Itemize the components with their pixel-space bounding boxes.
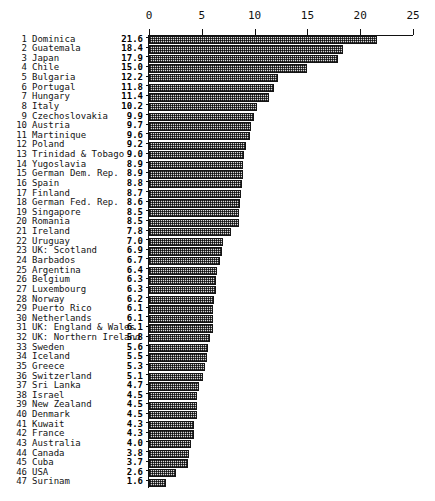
bar-row: 3Japan17.9	[0, 54, 435, 64]
bar-track	[149, 151, 244, 159]
bar-track	[149, 286, 216, 294]
bar-row: 7Hungary11.4	[0, 93, 435, 103]
bar-row: 40Denmark4.5	[0, 411, 435, 421]
bar	[149, 180, 242, 188]
bar-track	[149, 170, 243, 178]
bar	[149, 411, 197, 419]
bar-row: 32UK: Northern Ireland5.8	[0, 334, 435, 344]
x-axis-tick-label: 20	[354, 10, 367, 22]
bar	[149, 55, 338, 63]
bar-row: 41Kuwait4.3	[0, 420, 435, 430]
bar-track	[149, 344, 208, 352]
x-axis-tick-label: 10	[248, 10, 261, 22]
bar-track	[149, 479, 166, 487]
x-axis-tick-label: 15	[301, 10, 314, 22]
bar-track	[149, 363, 205, 371]
bar-track	[149, 450, 189, 458]
bar-track	[149, 55, 338, 63]
bar	[149, 469, 176, 477]
bar	[149, 430, 194, 438]
bar	[149, 450, 189, 458]
bar	[149, 209, 239, 217]
bar	[149, 257, 220, 265]
bar-track	[149, 36, 377, 44]
bar	[149, 402, 197, 410]
bar-row: 47Surinam1.6	[0, 478, 435, 488]
bar	[149, 36, 377, 44]
bar	[149, 459, 188, 467]
bar	[149, 247, 222, 255]
bar-row-rank: 47	[0, 477, 27, 487]
bar-track	[149, 190, 241, 198]
bar-track	[149, 84, 274, 92]
bar-row: 15German Dem. Rep.8.9	[0, 170, 435, 180]
bar	[149, 276, 216, 284]
bar	[149, 392, 197, 400]
bar-row: 11Martinique9.6	[0, 131, 435, 141]
bar	[149, 382, 199, 390]
x-axis-tick-label: 25	[406, 10, 419, 22]
bar-track	[149, 324, 213, 332]
bar-row: 45Cuba3.7	[0, 459, 435, 469]
bar	[149, 151, 244, 159]
bar-track	[149, 45, 343, 53]
bar-track	[149, 132, 250, 140]
bar	[149, 296, 214, 304]
bar-track	[149, 238, 223, 246]
bar	[149, 170, 243, 178]
bar	[149, 267, 217, 275]
bar-track	[149, 64, 307, 72]
bar-track	[149, 459, 188, 467]
bar-track	[149, 93, 269, 101]
bar	[149, 161, 243, 169]
bar	[149, 334, 210, 342]
bar	[149, 64, 307, 72]
bar-track	[149, 228, 231, 236]
bar-row-value: 1.6	[99, 477, 143, 487]
bar-track	[149, 353, 207, 361]
bar	[149, 440, 191, 448]
bar-track	[149, 199, 240, 207]
bar-row: 34Iceland5.5	[0, 353, 435, 363]
x-axis-tick-label: 5	[198, 10, 205, 22]
bar	[149, 238, 223, 246]
bar-chart: 0510152025 1Dominica21.62Guatemala18.43J…	[0, 0, 435, 501]
bar-row: 2Guatemala18.4	[0, 45, 435, 55]
bar	[149, 286, 216, 294]
bar	[149, 199, 240, 207]
bar-track	[149, 430, 194, 438]
bar	[149, 305, 213, 313]
bar-track	[149, 142, 246, 150]
bar	[149, 93, 269, 101]
bar-track	[149, 411, 197, 419]
bar-track	[149, 103, 257, 111]
bar-track	[149, 382, 199, 390]
bar-track	[149, 247, 222, 255]
bar	[149, 479, 166, 487]
bar	[149, 122, 251, 130]
bar-track	[149, 392, 197, 400]
bar	[149, 103, 257, 111]
bar	[149, 132, 250, 140]
bar-row-label: Surinam	[32, 477, 70, 487]
bar	[149, 421, 194, 429]
bar-track	[149, 373, 203, 381]
bar-track	[149, 219, 239, 227]
bar-track	[149, 180, 242, 188]
bar	[149, 324, 213, 332]
bar	[149, 344, 208, 352]
bar-track	[149, 161, 243, 169]
bar-track	[149, 315, 213, 323]
bar	[149, 363, 205, 371]
bar-track	[149, 209, 239, 217]
bar-track	[149, 402, 197, 410]
bar-track	[149, 334, 210, 342]
bar-track	[149, 305, 213, 313]
bar	[149, 353, 207, 361]
bar-track	[149, 267, 217, 275]
bar	[149, 373, 203, 381]
bar-track	[149, 122, 251, 130]
bar-track	[149, 440, 191, 448]
bar	[149, 74, 278, 82]
bar	[149, 219, 239, 227]
